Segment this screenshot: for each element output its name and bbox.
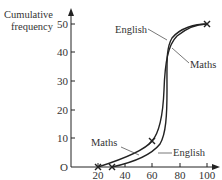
cross-icon — [149, 138, 155, 144]
y-ticks — [71, 24, 75, 138]
maths-annotation-top: Maths — [190, 59, 216, 70]
maths-annotation-bottom: Maths — [91, 137, 117, 148]
y-axis-arrow-icon — [68, 8, 74, 16]
x-tick-label: 100 — [199, 169, 216, 180]
origin-label: O — [60, 161, 68, 173]
y-tick-label: 30 — [57, 75, 69, 87]
y-tick-label: 40 — [57, 46, 69, 58]
y-tick-label: 10 — [57, 132, 69, 144]
english-curve — [112, 24, 207, 167]
y-axis-label-line2: frequency — [11, 21, 54, 32]
y-tick-label: 50 — [57, 18, 69, 30]
cumulative-frequency-chart: 50 40 30 20 10 O Cumulative frequency 20… — [0, 0, 222, 180]
y-axis-label-line1: Cumulative — [4, 9, 53, 20]
english-annotation-top: English — [115, 24, 148, 35]
x-tick-label: 80 — [175, 169, 187, 180]
x-tick-label: 20 — [93, 169, 105, 180]
english-annotation-bottom: English — [173, 147, 206, 158]
x-tick-label: 40 — [120, 169, 132, 180]
x-tick-label: 60 — [147, 169, 159, 180]
y-tick-label: 20 — [57, 104, 69, 116]
